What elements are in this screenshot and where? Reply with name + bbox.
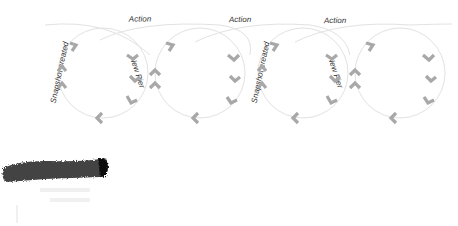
snapshot-label-3: Snapshot created: [250, 40, 272, 104]
chevron-arrows-loop-4: [350, 43, 436, 123]
chevron-icon: [228, 55, 239, 60]
action-label-2: Action: [228, 15, 252, 24]
chevron-icon: [227, 97, 237, 103]
loop-2: [100, 24, 251, 118]
chevron-icon: [426, 76, 436, 81]
chevron-icon: [127, 96, 137, 103]
chevron-icon: [327, 96, 337, 103]
loop-3: [195, 24, 350, 118]
faint-ghost-marks: [16, 188, 90, 223]
chevron-arrows-loop-2: [150, 43, 240, 123]
newpier-label-1: New Pier: [128, 55, 147, 89]
chevron-icon: [70, 43, 76, 51]
chevron-icon: [230, 76, 240, 81]
loop-diagram: Action Action Action Snapshot created Sn…: [0, 0, 458, 226]
chevron-icon: [150, 83, 160, 88]
chevron-icon: [366, 43, 373, 51]
chevron-icon: [166, 43, 173, 51]
chevron-icon: [350, 83, 360, 88]
brush-stroke: [2, 158, 108, 182]
chevron-icon: [423, 55, 434, 60]
chevron-icon: [424, 97, 434, 103]
snapshot-label-1: Snapshot created: [49, 40, 71, 104]
chevron-icon: [270, 43, 277, 51]
action-label-3: Action: [323, 16, 347, 25]
action-label-1: Action: [128, 14, 152, 23]
newpier-label-3: New Pier: [326, 55, 345, 89]
